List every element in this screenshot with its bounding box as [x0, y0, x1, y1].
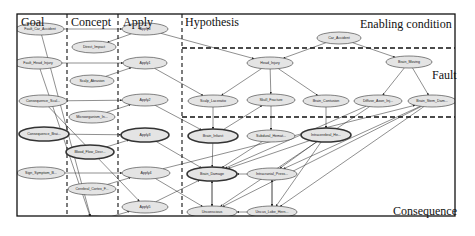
label-apply: Apply: [123, 15, 153, 29]
node-brain_stem_dam[interactable]: Brain_Stem_Dam...: [408, 95, 456, 107]
edge-diffuse_axon-to-unconscious: [220, 107, 369, 207]
edge-consequence_scal-to-apply2: [67, 100, 122, 101]
edge-apply0-to-direct_impact: [107, 34, 131, 42]
node-label: Brain_Contusion: [313, 99, 340, 103]
node-label: Diffuse_Axon_Inj...: [363, 99, 393, 103]
node-label: Scalp_Laceratio: [200, 99, 226, 103]
node-microorganism[interactable]: Microorganism_In...: [69, 111, 115, 123]
edge-apply1-to-scalp_laceratio: [155, 68, 203, 95]
node-fault_head_injury[interactable]: Fault_Head_Injury: [14, 57, 62, 69]
node-label: Apply1: [140, 61, 151, 65]
node-concept_bottom[interactable]: [68, 216, 116, 228]
edge-consequence_brai-to-apply3: [69, 134, 121, 135]
node-diffuse_axon[interactable]: Diffuse_Axon_Inj...: [354, 95, 402, 107]
edge-cerebral_cortex-to-apply4: [107, 178, 130, 185]
edge-car_accident-to-brain_moving: [353, 43, 395, 58]
node-brain_moving[interactable]: Brain_Moving: [386, 56, 432, 68]
node-car_accident[interactable]: Car_Accident: [317, 32, 361, 44]
edge-car_accident-to-head_injury: [283, 43, 325, 58]
node-apply1[interactable]: Apply1: [123, 57, 167, 69]
node-sign_symptom[interactable]: Sign_Symptom_B...: [17, 167, 65, 179]
node-skull_fracture[interactable]: Skull_Fracture: [247, 94, 295, 106]
node-label: Microorganism_In...: [76, 115, 108, 119]
node-scalp_abrasion[interactable]: Scalp_Abrasion: [70, 75, 114, 87]
node-label: Brain_Damage: [200, 172, 224, 176]
node-label: Apply4: [141, 171, 152, 175]
node-apply2[interactable]: Apply2: [122, 94, 168, 106]
node-label: Uncus_Lobe_Hern...: [256, 210, 289, 214]
node-label: Direct_Impact: [83, 45, 105, 49]
node-label: Brain_Stem_Dam...: [416, 99, 447, 103]
label-fault: Fault: [432, 68, 457, 82]
node-brain_infarct[interactable]: Brain_Infarct: [188, 129, 238, 143]
label-enabling: Enabling condition: [360, 17, 452, 31]
node-intracerebral_he[interactable]: Intracerebral_He...: [301, 128, 351, 142]
edge-apply0-to-head_injury: [161, 33, 254, 58]
node-label: Intracerebral_He...: [311, 133, 341, 137]
node-label: Apply5: [140, 205, 151, 209]
node-apply4[interactable]: Apply4: [122, 167, 170, 179]
node-shape: [68, 216, 116, 228]
node-subdural_hemat[interactable]: Subdural_Hemat...: [247, 130, 295, 142]
node-brain_damage[interactable]: Brain_Damage: [187, 167, 237, 181]
edge-brain_moving-to-brain_stem_dam: [412, 68, 428, 95]
node-label: Apply3: [140, 133, 151, 137]
edge-brain_moving-to-diffuse_axon: [383, 68, 405, 95]
node-label: Brain_Infarct: [203, 134, 223, 138]
node-apply3[interactable]: Apply3: [121, 128, 169, 142]
node-apply5[interactable]: Apply5: [122, 201, 168, 213]
region-dividers: [67, 14, 455, 216]
edge-head_injury-to-skull_fracture: [270, 69, 271, 94]
node-label: Consequence_Brai...: [27, 132, 61, 136]
label-hypothesis: Hypothesis: [185, 15, 239, 29]
node-label: Subdural_Hemat...: [256, 134, 286, 138]
edge-head_injury-to-brain_contusion: [278, 69, 317, 96]
node-label: Skull_Fracture: [259, 98, 282, 102]
node-label: Consequence_Scal...: [26, 99, 60, 103]
node-label: Blood_Flow_Decr...: [74, 150, 105, 154]
edge-apply5-to-brain_damage: [156, 180, 200, 202]
label-concept: Concept: [71, 15, 112, 29]
node-label: Intracranial_Press...: [256, 172, 288, 176]
node-direct_impact[interactable]: Direct_Impact: [72, 41, 116, 53]
label-goal: Goal: [21, 15, 45, 29]
node-label: Car_Accident: [328, 36, 350, 40]
node-label: Apply2: [140, 98, 151, 102]
node-label: Scalp_Abrasion: [79, 79, 104, 83]
node-scalp_laceratio[interactable]: Scalp_Laceratio: [188, 95, 238, 107]
node-consequence_brai[interactable]: Consequence_Brai...: [19, 127, 69, 141]
causal-network-diagram: Fault_Car_AccidentFault_Head_InjuryConse…: [0, 0, 475, 236]
node-label: Brain_Moving: [398, 60, 420, 64]
node-label: Fault_Head_Injury: [23, 61, 53, 65]
edge-apply3-to-brain_damage: [156, 141, 201, 167]
node-head_injury[interactable]: Head_Injury: [247, 57, 293, 69]
node-label: Unconscious: [202, 210, 223, 214]
edge-brain_stem_dam-to-unconscious: [223, 106, 422, 206]
edge-brain_stem_dam-to-uncus_lobe_hern: [280, 107, 424, 207]
edge-apply4-to-unconscious: [155, 179, 202, 207]
edge-brain_infarct-to-brain_damage: [212, 143, 213, 167]
diagram-canvas: Fault_Car_AccidentFault_Head_InjuryConse…: [0, 0, 475, 236]
node-intracranial_press[interactable]: Intracranial_Press...: [247, 168, 297, 180]
node-label: Cerebral_Cortex_F...: [75, 187, 108, 191]
node-blood_flow[interactable]: Blood_Flow_Decr...: [66, 145, 114, 159]
edge-head_injury-to-scalp_laceratio: [221, 69, 261, 96]
node-label: Sign_Symptom_B...: [25, 171, 57, 175]
node-cerebral_cortex[interactable]: Cerebral_Cortex_F...: [68, 183, 116, 195]
node-consequence_scal[interactable]: Consequence_Scal...: [19, 95, 67, 107]
node-label: Head_Injury: [260, 61, 280, 65]
node-brain_contusion[interactable]: Brain_Contusion: [303, 95, 349, 107]
